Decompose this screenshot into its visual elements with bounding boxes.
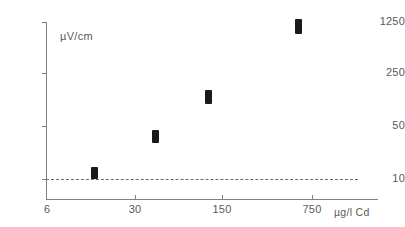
- x-axis-line: [46, 199, 378, 200]
- y-axis-tick-label: 50: [369, 120, 405, 131]
- x-axis-tick-label: 30: [129, 203, 142, 215]
- y-axis-tick-label: 10: [369, 173, 405, 184]
- y-axis-tick: [42, 73, 47, 74]
- y-axis-ticks: [0, 0, 46, 1]
- y-axis-tick: [42, 179, 47, 180]
- data-marker-30: [152, 130, 159, 143]
- x-axis-tick: [135, 195, 136, 199]
- detection-threshold-line: [46, 179, 358, 180]
- x-axis-tick-label: 6: [44, 203, 50, 215]
- x-axis-tick-label: 750: [303, 203, 322, 215]
- x-axis-tick: [312, 195, 313, 199]
- data-marker-150: [205, 90, 212, 104]
- x-axis-tick-label: 150: [213, 203, 232, 215]
- y-axis-tick-label: 250: [369, 67, 405, 78]
- data-marker-750: [295, 19, 302, 34]
- y-axis-tick: [42, 126, 47, 127]
- y-axis-title: µV/cm: [60, 30, 93, 42]
- x-axis-title: µg/l Cd: [334, 206, 370, 218]
- data-marker-6: [91, 167, 98, 179]
- x-axis-tick: [222, 195, 223, 199]
- chart-container: µV/cm µg/l Cd 12502505010630150750: [0, 0, 405, 227]
- y-axis-tick-label: 1250: [369, 16, 405, 27]
- y-axis-line: [46, 22, 47, 199]
- y-axis-tick: [42, 22, 47, 23]
